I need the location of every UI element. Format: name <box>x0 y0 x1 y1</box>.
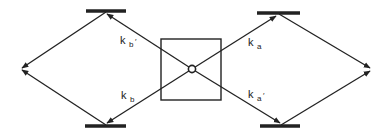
svg-text:′: ′ <box>263 91 265 100</box>
edge-bottomleft-to-left <box>22 70 106 125</box>
svg-text:k: k <box>120 34 126 46</box>
edge-ka <box>192 16 276 69</box>
rate-label-kb: k b <box>121 89 135 104</box>
svg-text:b: b <box>129 40 134 49</box>
edge-kb <box>107 69 192 123</box>
edge-topright-to-right <box>279 14 370 68</box>
edge-bottomright-to-right <box>281 71 370 125</box>
svg-text:k: k <box>248 36 254 48</box>
kinetic-diagram: k b ′ k b k a k a ′ <box>0 0 383 135</box>
rate-label-kb-prime: k b ′ <box>120 34 137 49</box>
svg-text:k: k <box>121 89 127 101</box>
center-circle <box>188 65 195 72</box>
rate-label-ka: k a <box>248 36 262 51</box>
edge-ka-prime <box>192 69 280 123</box>
svg-text:a: a <box>257 94 262 103</box>
edge-topleft-to-left <box>22 12 106 68</box>
svg-text:′: ′ <box>135 37 137 46</box>
rate-label-ka-prime: k a ′ <box>248 88 265 103</box>
svg-text:b: b <box>130 95 135 104</box>
svg-text:a: a <box>257 42 262 51</box>
svg-text:k: k <box>248 88 254 100</box>
